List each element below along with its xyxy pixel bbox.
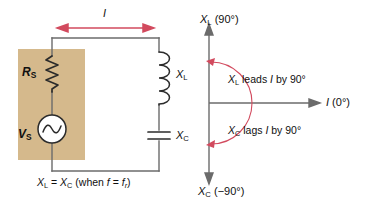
phasor-axis-down-label: XC (−90°): [198, 186, 244, 198]
phasor-axes: [205, 24, 320, 184]
phasor-note-lags: XC lags I by 90°: [228, 125, 301, 137]
source-label: VS: [18, 128, 32, 141]
capacitor-label: XC: [176, 130, 189, 142]
resistor-label: RS: [22, 66, 36, 79]
phasor-axis-up-label: XL (90°): [200, 14, 239, 26]
arc-bottom-arrowhead: [206, 140, 215, 148]
phasor-note-leads: XL leads I by 90°: [228, 74, 306, 86]
resonance-condition-note: XL = XC (when f = fr): [37, 177, 131, 189]
phasor-axis-right-label: I (0°): [326, 97, 350, 108]
figure-root: I RS VS XL XC XL = XC (when f = fr) XL (…: [0, 0, 366, 203]
figure-canvas: [0, 0, 366, 203]
arc-top-arrowhead: [206, 58, 215, 66]
current-arrow-label: I: [103, 8, 106, 19]
current-arrow: [57, 24, 154, 32]
inductor-label: XL: [176, 69, 188, 81]
axis-down-arrowhead: [205, 173, 213, 184]
inductor-symbol: [159, 52, 170, 105]
axis-right-arrowhead: [309, 99, 320, 107]
ac-source-symbol: [38, 115, 66, 143]
capacitor-symbol: [148, 132, 170, 139]
